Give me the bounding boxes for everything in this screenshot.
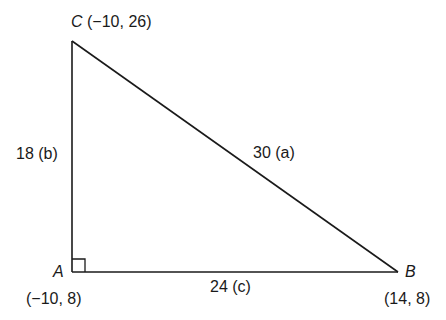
vertex-c-coords: (−10, 26) bbox=[87, 13, 151, 30]
vertex-c-label: C (−10, 26) bbox=[71, 13, 152, 31]
right-angle-marker bbox=[72, 259, 85, 272]
vertex-b-name: B bbox=[405, 263, 416, 281]
side-a-hypotenuse-line bbox=[72, 41, 398, 272]
side-c-label: 24 (c) bbox=[210, 278, 251, 296]
vertex-a-coords: (−10, 8) bbox=[26, 290, 82, 308]
vertex-a-name: A bbox=[53, 263, 64, 281]
triangle-diagram bbox=[0, 0, 446, 320]
vertex-b-coords: (14, 8) bbox=[384, 290, 430, 308]
side-b-label: 18 (b) bbox=[16, 145, 58, 163]
side-a-label: 30 (a) bbox=[253, 144, 295, 162]
vertex-c-name: C bbox=[71, 13, 83, 30]
